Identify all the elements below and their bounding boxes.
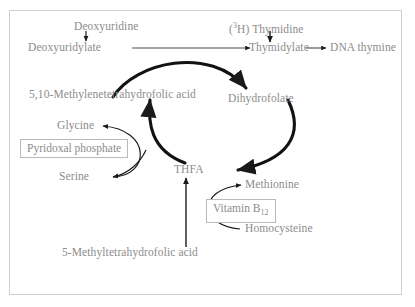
cofactor-pyridoxal-phosphate: Pyridoxal phosphate (20, 139, 128, 158)
node-glycine: Glycine (57, 119, 94, 131)
cofactor-vitamin-b12: Vitamin B12 (206, 199, 276, 223)
node-methylenetetrahydrofolic-acid: 5,10-Methylenetetrahydrofolic acid (29, 88, 196, 100)
node-tritiated-thymidine: (3H) Thymidine (229, 20, 304, 35)
node-deoxyuridylate: Deoxyuridylate (28, 41, 101, 53)
node-dihydrofolate: Dihydrofolate (228, 92, 294, 104)
node-dna-thymine: DNA thymine (330, 41, 396, 53)
node-methyltetrahydrofolic-acid: 5-Methyltetrahydrofolic acid (62, 246, 198, 258)
figure-container: Deoxyuridine Deoxyuridylate (3H) Thymidi… (0, 0, 415, 307)
node-serine: Serine (59, 170, 89, 182)
node-thfa: THFA (174, 163, 204, 175)
node-deoxyuridine: Deoxyuridine (74, 20, 138, 32)
node-thymidylate: Thymidylate (249, 41, 309, 53)
node-homocysteine: Homocysteine (245, 222, 313, 234)
node-methionine: Methionine (245, 178, 299, 190)
